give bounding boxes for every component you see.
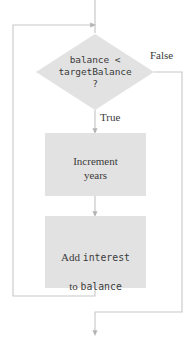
edge-false-line xyxy=(95,72,182,333)
flowchart-canvas xyxy=(0,0,191,343)
process-box-increment-years-shape xyxy=(45,133,146,196)
process-box-add-interest-shape xyxy=(45,216,146,288)
decision-diamond-shape xyxy=(36,34,154,110)
flowchart-diagram: balance < targetBalance ? Increment year… xyxy=(0,0,191,343)
